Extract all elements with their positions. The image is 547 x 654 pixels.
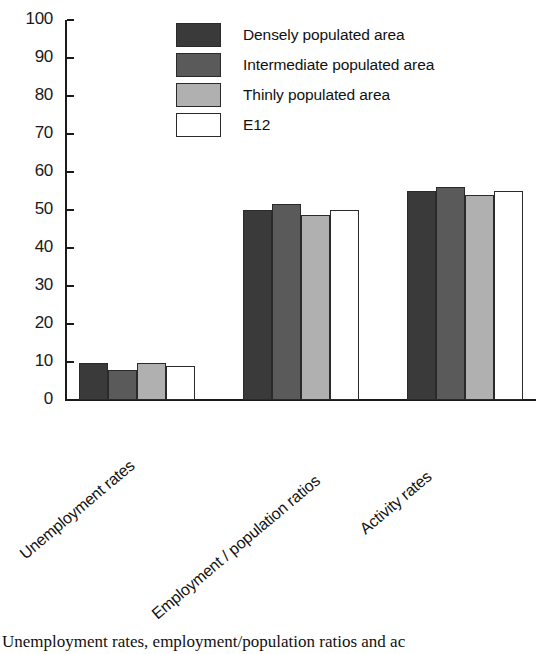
chart-legend: Densely populated areaIntermediate popul… bbox=[176, 20, 434, 140]
y-axis-tick-label: 60 bbox=[35, 161, 53, 181]
x-axis-category-label: Employment / population ratios bbox=[148, 472, 323, 623]
legend-swatch bbox=[176, 113, 221, 137]
y-axis-tick-label: 20 bbox=[35, 313, 53, 333]
bar bbox=[407, 191, 436, 400]
bar bbox=[436, 187, 465, 400]
bar bbox=[465, 195, 494, 400]
legend-item-label: E12 bbox=[243, 116, 270, 134]
legend-item: Densely populated area bbox=[176, 20, 434, 50]
y-axis-tick-label: 80 bbox=[35, 85, 53, 105]
legend-item: E12 bbox=[176, 110, 434, 140]
x-axis-category-label: Unemployment rates bbox=[16, 457, 138, 563]
figure-caption: Unemployment rates, employment/populatio… bbox=[2, 632, 547, 652]
bar bbox=[166, 366, 195, 400]
legend-swatch bbox=[176, 23, 221, 47]
legend-item: Thinly populated area bbox=[176, 80, 434, 110]
legend-item-label: Densely populated area bbox=[243, 26, 405, 44]
bar bbox=[301, 215, 330, 400]
chart-figure: 1009080706050403020100 Unemployment rate… bbox=[0, 0, 547, 654]
legend-swatch bbox=[176, 53, 221, 77]
legend-item: Intermediate populated area bbox=[176, 50, 434, 80]
bar bbox=[108, 370, 137, 400]
y-axis-tick-label: 90 bbox=[35, 47, 53, 67]
legend-swatch bbox=[176, 83, 221, 107]
y-axis-tick-label: 0 bbox=[44, 389, 53, 409]
bar bbox=[494, 191, 523, 400]
bar bbox=[137, 363, 166, 400]
bar bbox=[330, 210, 359, 400]
bar bbox=[243, 210, 272, 400]
legend-item-label: Thinly populated area bbox=[243, 86, 390, 104]
bar bbox=[272, 204, 301, 400]
y-axis-tick-label: 10 bbox=[35, 351, 53, 371]
y-axis-tick-label: 40 bbox=[35, 237, 53, 257]
legend-item-label: Intermediate populated area bbox=[243, 56, 434, 74]
bar bbox=[79, 363, 108, 400]
y-axis-tick-label: 30 bbox=[35, 275, 53, 295]
y-axis-tick-label: 70 bbox=[35, 123, 53, 143]
y-axis-tick-label: 100 bbox=[26, 9, 53, 29]
x-axis-category-label: Activity rates bbox=[356, 468, 435, 538]
y-axis-tick-label: 50 bbox=[35, 199, 53, 219]
